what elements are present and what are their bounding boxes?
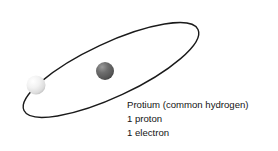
- caption-line-title: Protium (common hydrogen): [127, 98, 277, 112]
- proton-particle: [96, 62, 114, 80]
- caption-line-proton-count: 1 proton: [127, 112, 277, 126]
- caption-line-electron-count: 1 electron: [127, 126, 277, 140]
- caption-block: Protium (common hydrogen) 1 proton 1 ele…: [127, 98, 277, 139]
- electron-particle: [27, 76, 46, 95]
- atom-diagram-canvas: Protium (common hydrogen) 1 proton 1 ele…: [0, 0, 278, 151]
